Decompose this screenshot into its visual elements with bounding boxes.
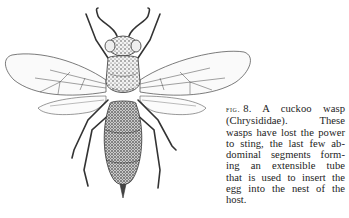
caption-line-7: that is used to insert the (226, 172, 345, 183)
right-forewing (140, 51, 250, 95)
caption-line-8: egg into the nest of the (226, 183, 345, 194)
head (105, 36, 141, 56)
thorax (106, 56, 140, 93)
caption-line-3: wasps have lost the power (226, 127, 345, 138)
caption-line-4: to sting, the last few ab- (226, 138, 345, 149)
caption-line-1: fig.8. A cuckoo wasp (226, 103, 345, 115)
figure-caption: fig.8. A cuckoo wasp (Chrysididae). Thes… (226, 103, 345, 206)
abdomen (104, 101, 142, 198)
caption-line-6: ing an extensible tube (226, 160, 345, 171)
figure-label: fig. (226, 104, 240, 114)
caption-line-5: dominal segments form- (226, 149, 345, 160)
caption-line-2: (Chrysididae). These (226, 115, 345, 126)
antennae (97, 8, 150, 36)
figure-number: 8. (243, 103, 251, 114)
left-forewing (5, 54, 106, 95)
caption-line-9: host. (226, 194, 345, 205)
